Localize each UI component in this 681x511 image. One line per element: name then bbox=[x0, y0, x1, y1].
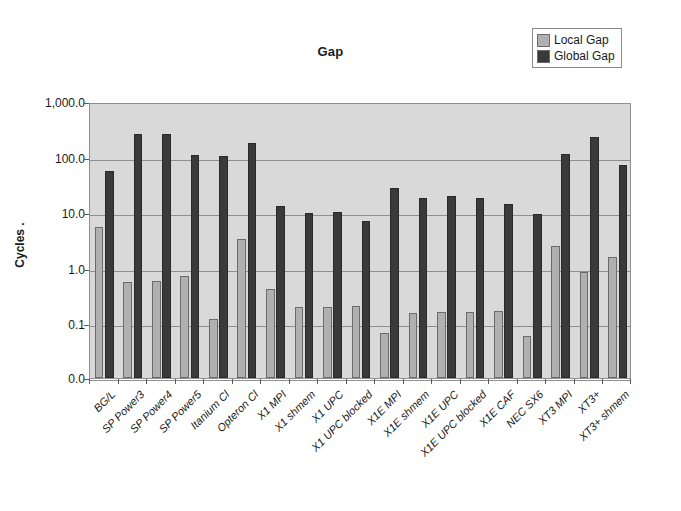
x-tick-mark bbox=[346, 379, 347, 384]
legend-swatch-global-gap bbox=[537, 50, 550, 63]
bar-global-gap bbox=[134, 134, 143, 378]
chart-title-text: Gap bbox=[318, 44, 344, 59]
bar-local-gap bbox=[352, 306, 361, 378]
x-tick-mark bbox=[574, 379, 575, 384]
legend-item-local-gap: Local Gap bbox=[537, 32, 615, 48]
bar-local-gap bbox=[409, 313, 418, 378]
bar-local-gap bbox=[323, 307, 332, 378]
x-tick-mark bbox=[488, 379, 489, 384]
bar-global-gap bbox=[248, 143, 257, 378]
bar-local-gap bbox=[580, 272, 589, 378]
bar-local-gap bbox=[95, 227, 104, 378]
bar-global-gap bbox=[362, 221, 371, 378]
bar-local-gap bbox=[608, 257, 617, 378]
legend-label-global-gap: Global Gap bbox=[554, 50, 615, 62]
bar-global-gap bbox=[276, 206, 285, 378]
bar-local-gap bbox=[437, 312, 446, 378]
bar-global-gap bbox=[390, 188, 399, 378]
x-tick-mark bbox=[460, 379, 461, 384]
chart-legend: Local Gap Global Gap bbox=[532, 28, 622, 68]
y-tick-label: 10.0 bbox=[5, 207, 89, 221]
y-tick-label: 0.1 bbox=[5, 318, 89, 332]
y-tick-label: 1,000.0 bbox=[5, 96, 89, 110]
x-tick-mark bbox=[431, 379, 432, 384]
bar-global-gap bbox=[419, 198, 428, 378]
y-tick-label: 1.0 bbox=[5, 263, 89, 277]
bar-local-gap bbox=[523, 336, 532, 378]
bar-global-gap bbox=[590, 137, 599, 378]
bar-global-gap bbox=[504, 204, 513, 378]
bar-local-gap bbox=[380, 333, 389, 378]
legend-label-local-gap: Local Gap bbox=[554, 34, 609, 46]
y-axis-tick-labels: 1,000.0100.010.01.00.10.0 bbox=[0, 103, 89, 379]
bar-global-gap bbox=[333, 212, 342, 378]
y-tick-label: 0.0 bbox=[5, 372, 89, 386]
x-tick-mark bbox=[517, 379, 518, 384]
bar-local-gap bbox=[266, 289, 275, 378]
bar-global-gap bbox=[447, 196, 456, 378]
bar-global-gap bbox=[191, 155, 200, 378]
x-tick-mark bbox=[289, 379, 290, 384]
bar-local-gap bbox=[551, 246, 560, 378]
x-tick-mark bbox=[118, 379, 119, 384]
bar-global-gap bbox=[162, 134, 171, 378]
bar-global-gap bbox=[105, 171, 114, 378]
bar-local-gap bbox=[295, 307, 304, 378]
x-tick-mark bbox=[146, 379, 147, 384]
x-tick-mark bbox=[602, 379, 603, 384]
bar-local-gap bbox=[237, 239, 246, 378]
bar-global-gap bbox=[305, 213, 314, 378]
bar-local-gap bbox=[209, 319, 218, 378]
legend-item-global-gap: Global Gap bbox=[537, 48, 615, 64]
x-tick-mark bbox=[630, 379, 631, 384]
bars-layer bbox=[90, 104, 630, 378]
bar-global-gap bbox=[476, 198, 485, 378]
bar-global-gap bbox=[533, 214, 542, 378]
bar-local-gap bbox=[494, 311, 503, 378]
bar-global-gap bbox=[619, 165, 628, 378]
bar-local-gap bbox=[466, 312, 475, 378]
y-tick-label: 100.0 bbox=[5, 152, 89, 166]
bar-local-gap bbox=[180, 276, 189, 378]
bar-local-gap bbox=[152, 281, 161, 378]
bar-global-gap bbox=[219, 156, 228, 378]
x-tick-mark bbox=[317, 379, 318, 384]
legend-swatch-local-gap bbox=[537, 34, 550, 47]
x-tick-mark bbox=[260, 379, 261, 384]
x-tick-mark bbox=[203, 379, 204, 384]
x-tick-mark bbox=[545, 379, 546, 384]
x-tick-mark bbox=[89, 379, 90, 384]
x-axis: BG/LSP Power3SP Power4SP Power5Itanium C… bbox=[89, 379, 631, 509]
plot-area bbox=[89, 103, 631, 379]
x-tick-mark bbox=[175, 379, 176, 384]
x-tick-mark bbox=[403, 379, 404, 384]
gap-bar-chart: Gap Local Gap Global Gap Cycles . 1,000.… bbox=[0, 0, 681, 511]
bar-local-gap bbox=[123, 282, 132, 378]
x-tick-mark bbox=[232, 379, 233, 384]
x-tick-mark bbox=[374, 379, 375, 384]
bar-global-gap bbox=[561, 154, 570, 378]
